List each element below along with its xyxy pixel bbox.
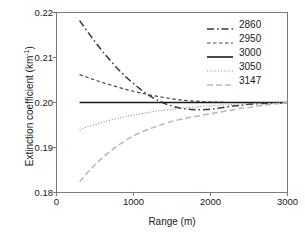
x-tick-marks	[57, 193, 288, 197]
legend-swatch-3000	[207, 48, 233, 58]
legend-label-3147: 3147	[239, 76, 261, 86]
legend-swatch-2860	[207, 20, 233, 30]
y-tick-marks	[53, 13, 57, 193]
legend-item-3000[interactable]: 3000	[207, 46, 283, 60]
chart-legend: 28602950300030503147	[207, 18, 283, 88]
legend-item-3050[interactable]: 3050	[207, 60, 283, 74]
legend-item-3147[interactable]: 3147	[207, 74, 283, 88]
legend-item-2950[interactable]: 2950	[207, 32, 283, 46]
legend-label-3050: 3050	[239, 62, 261, 72]
chart-figure: Extinction coefficient (km-1) Range (m) …	[0, 0, 305, 236]
legend-swatch-3147	[207, 76, 233, 86]
legend-label-2950: 2950	[239, 34, 261, 44]
series-line-3147	[80, 103, 288, 182]
legend-label-2860: 2860	[239, 20, 261, 30]
legend-swatch-3050	[207, 62, 233, 72]
legend-swatch-2950	[207, 34, 233, 44]
legend-item-2860[interactable]: 2860	[207, 18, 283, 32]
legend-label-3000: 3000	[239, 48, 261, 58]
